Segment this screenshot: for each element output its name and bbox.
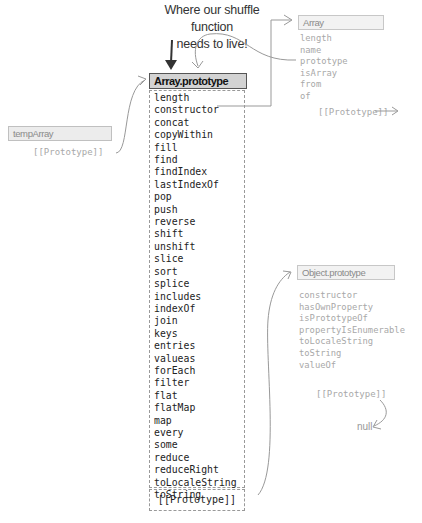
- temp-array-to-array-prototype-arrow-icon: [116, 76, 146, 153]
- constructor-to-array-arrow-icon: [217, 15, 292, 106]
- object-prototype-to-null-arrow-icon: [373, 400, 386, 429]
- connector-arrows: [0, 0, 422, 523]
- array-prototype-link-arrow-icon: [192, 34, 296, 68]
- array-prototype-to-object-prototype-arrow-icon: [258, 271, 291, 495]
- annotation-arrow-icon: [165, 40, 177, 70]
- array-ctor-prototype-arrow-icon: [375, 107, 398, 115]
